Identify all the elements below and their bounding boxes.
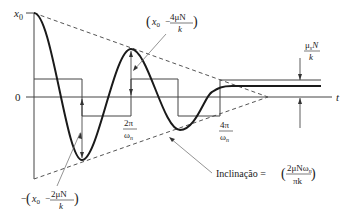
arrow-head-up	[80, 99, 84, 105]
svg-text:2μNωn: 2μNωn	[287, 163, 312, 174]
coulomb-damping-diagram: x0 0 t ( x0 − 4μN k ) − ( x0 − 2μN k ) 2…	[0, 0, 351, 224]
svg-text:(: (	[146, 14, 151, 30]
arrow-head-down	[298, 74, 302, 80]
arrow-head-up	[129, 51, 133, 57]
slope-leader	[170, 138, 212, 173]
svg-text:ωn: ωn	[124, 130, 133, 141]
lower-envelope-dashed	[34, 97, 268, 179]
svg-text:): )	[193, 14, 198, 30]
svg-text:k: k	[309, 52, 314, 62]
svg-text:μsN: μsN	[305, 40, 319, 51]
svg-text:4μN: 4μN	[170, 12, 186, 22]
period1-label: 2π ωn	[123, 118, 137, 141]
svg-text:x0: x0	[151, 16, 160, 29]
svg-text:−: −	[45, 193, 50, 203]
svg-text:x0: x0	[31, 193, 40, 206]
zero-label: 0	[15, 91, 21, 103]
svg-text:k: k	[178, 24, 183, 34]
trough1-annotation: − ( x0 − 2μN k )	[21, 189, 79, 211]
arrow-head-up	[298, 98, 302, 104]
upper-envelope-dashed	[34, 13, 268, 97]
x0-label: x0	[13, 7, 23, 22]
trough1-leader	[57, 133, 80, 186]
static-friction-label: μsN k	[304, 40, 320, 62]
period2-label: 4π ωn	[219, 120, 233, 143]
svg-text:): )	[74, 191, 79, 207]
peak2-leader	[134, 34, 166, 70]
svg-text:ωn: ωn	[220, 132, 229, 143]
svg-text:(: (	[26, 191, 31, 207]
svg-text:2π: 2π	[124, 118, 134, 128]
arrow-head-down	[129, 89, 133, 95]
svg-text:πk: πk	[293, 176, 303, 186]
svg-text:4π: 4π	[220, 120, 230, 130]
svg-text:Inclinação =: Inclinação =	[216, 168, 266, 179]
svg-text:k: k	[59, 201, 64, 211]
t-label: t	[336, 91, 340, 103]
arrow-head-down	[80, 152, 84, 158]
svg-text:): )	[311, 166, 316, 182]
slope-label: Inclinação = ( 2μNωn πk )	[216, 163, 316, 186]
peak2-annotation: ( x0 − 4μN k )	[146, 12, 198, 34]
svg-text:(: (	[281, 166, 286, 182]
svg-text:2μN: 2μN	[51, 189, 67, 199]
